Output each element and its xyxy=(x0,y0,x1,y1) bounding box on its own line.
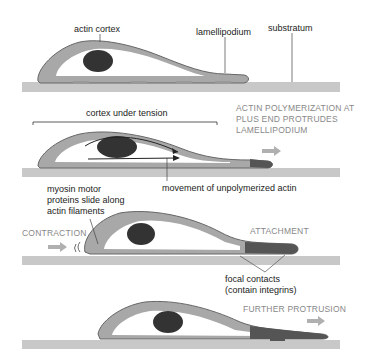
label-focal-contacts-2: (contain integrins) xyxy=(225,285,297,296)
caption-attachment: ATTACHMENT xyxy=(250,226,309,237)
protrusion-arrow-4 xyxy=(307,316,325,326)
protruding-tip-4 xyxy=(250,326,328,341)
label-myosin-2: proteins slide along xyxy=(47,195,125,206)
label-myosin-3: actin filaments xyxy=(47,206,105,217)
polymerized-tip-2 xyxy=(250,159,273,168)
nucleus-1 xyxy=(83,50,113,72)
label-actin-cortex: actin cortex xyxy=(74,24,120,35)
contraction-arrow xyxy=(48,242,67,252)
nucleus-4 xyxy=(153,311,183,333)
caption-contraction: CONTRACTION xyxy=(22,228,87,239)
nucleus-2 xyxy=(97,136,137,158)
label-movement-unpolymerized-actin: movement of unpolymerized actin xyxy=(162,183,297,194)
caption-actin-polymerization-3: LAMELLIPODIUM xyxy=(236,125,308,136)
label-cortex-under-tension: cortex under tension xyxy=(86,108,168,119)
substratum-4 xyxy=(22,340,340,349)
caption-actin-polymerization-2: PLUS END PROTRUDES xyxy=(236,114,338,125)
substratum-3 xyxy=(22,256,340,265)
label-substratum: substratum xyxy=(268,23,313,34)
caption-further-protrusion: FURTHER PROTRUSION xyxy=(243,304,346,315)
stage-1-cell xyxy=(22,33,340,92)
substratum-2 xyxy=(22,168,340,177)
label-focal-contacts-1: focal contacts xyxy=(225,274,280,285)
nucleus-3 xyxy=(127,223,155,245)
label-lamellipodium: lamellipodium xyxy=(196,27,251,38)
stage-3-cell xyxy=(22,212,340,272)
label-myosin-1: myosin motor xyxy=(47,184,101,195)
protrusion-arrow-2 xyxy=(262,146,281,156)
caption-actin-polymerization-1: ACTIN POLYMERIZATION AT xyxy=(236,103,354,114)
